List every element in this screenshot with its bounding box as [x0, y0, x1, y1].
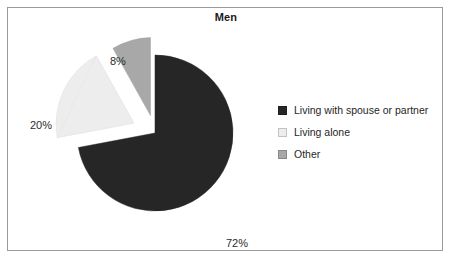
pie-slice-living-alone-group	[56, 56, 134, 138]
legend-swatch-icon-living-alone	[278, 128, 287, 137]
legend-label-living-alone: Living alone	[294, 126, 350, 138]
pie-slice-living-alone[interactable]	[56, 56, 134, 138]
legend-item-living-with-spouse-or-partner[interactable]: Living with spouse or partner	[278, 99, 443, 121]
pie-svg	[14, 22, 274, 247]
legend-item-living-alone[interactable]: Living alone	[278, 121, 443, 143]
legend-swatch-icon-living-with-spouse-or-partner	[278, 106, 287, 115]
pie-value-label-living-with-spouse-or-partner: 72%	[226, 237, 248, 249]
legend-item-other[interactable]: Other	[278, 143, 443, 165]
chart-legend: Living with spouse or partner Living alo…	[278, 99, 443, 165]
pie-value-label-living-alone: 20%	[30, 119, 52, 131]
pie-chart-figure: Men 8% 20% 72% Living with spouse or par…	[0, 0, 452, 262]
pie-value-label-other: 8%	[110, 55, 126, 67]
legend-label-living-with-spouse-or-partner: Living with spouse or partner	[294, 104, 428, 116]
pie-plot-area: 8% 20% 72%	[14, 22, 274, 247]
legend-label-other: Other	[294, 148, 320, 160]
legend-swatch-icon-other	[278, 150, 287, 159]
